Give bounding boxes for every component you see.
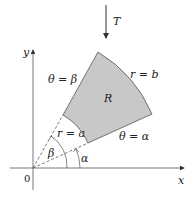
y-axis-label: y xyxy=(22,46,30,59)
angle-alpha-label: α xyxy=(81,152,89,165)
arc-outer-label: r = b xyxy=(130,68,159,81)
ray-alpha-label: θ = α xyxy=(119,130,150,143)
polar-region-diagram: T x y 0 R θ = β θ = α r = a r = b β α xyxy=(0,0,189,200)
x-axis-label: x xyxy=(178,174,185,187)
ray-beta-label: θ = β xyxy=(48,73,77,86)
arc-inner-label: r = a xyxy=(57,127,85,140)
region-label: R xyxy=(103,92,112,105)
ray-beta-dashed xyxy=(33,115,63,168)
angle-alpha-arc xyxy=(76,149,80,168)
angle-beta-label: β xyxy=(47,147,54,160)
transform-label: T xyxy=(113,15,122,28)
origin-label: 0 xyxy=(24,173,30,184)
